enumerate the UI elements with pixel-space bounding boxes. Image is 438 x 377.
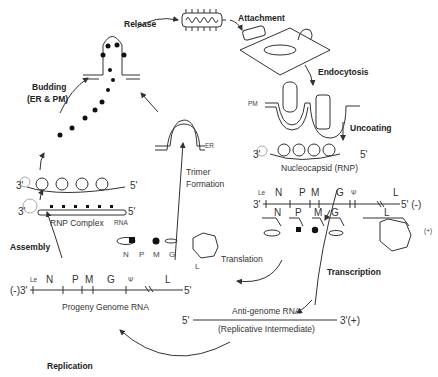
progeny-5-end: 5' <box>184 286 191 296</box>
antigenome-label: Anti-genome RNA <box>232 307 301 316</box>
replication-arrow <box>120 330 230 356</box>
gene-n: N <box>275 188 282 198</box>
protein-l: L <box>195 263 199 271</box>
replication-label: Replication <box>47 362 93 371</box>
trimer-sublabel: Formation <box>186 180 224 189</box>
gene-p: P <box>299 188 306 198</box>
mrna-m: M <box>314 208 322 218</box>
rnp-complex-3-end: 3' <box>18 207 25 217</box>
transcription-label: Transcription <box>327 268 381 277</box>
uncoating-label: Uncoating <box>350 124 392 133</box>
l-protein-shape <box>380 219 411 251</box>
endocytosis-arrow <box>305 65 313 85</box>
progeny-gene-g: G <box>107 275 115 285</box>
budding-label: Budding <box>32 83 66 92</box>
antigenome-3-end: 3'(+) <box>340 316 360 326</box>
gene-psi: Ψ <box>351 190 356 197</box>
progeny-gene-n: N <box>46 275 53 285</box>
progeny-gene-m: M <box>85 275 93 285</box>
assembly-label: Assembly <box>10 243 50 252</box>
genome-5-end: 5' (-) <box>401 200 421 210</box>
mrna-l: L <box>384 208 390 218</box>
protein-p: P <box>139 251 144 259</box>
protein-g: G <box>169 251 175 259</box>
mrna-polarity: (+) <box>424 228 432 235</box>
er-label: ER <box>205 143 214 150</box>
nucleocapsid-label: Nucleocapsid (RNP) <box>281 164 358 173</box>
nucleocapsid-3-end: 3' <box>253 150 260 160</box>
mrna-p: P <box>295 208 302 218</box>
pm-label: PM <box>248 101 258 108</box>
rnp-coil-3-end: 3' <box>16 181 23 191</box>
progeny-3-end: (-)3' <box>10 286 27 296</box>
rnp-complex-label: RNP Complex <box>50 219 104 228</box>
genome-3-end: 3' <box>253 200 260 210</box>
progeny-genome-label: Progeny Genome RNA <box>62 303 149 312</box>
progeny-gene-l: L <box>165 275 171 285</box>
gene-l: L <box>393 188 399 198</box>
budding-sublabel: (ER & PM) <box>27 95 68 104</box>
mrna-n: N <box>274 208 281 218</box>
progeny-gene-le: Le <box>30 277 37 284</box>
translation-label: Translation <box>221 255 263 264</box>
protein-m: M <box>153 251 160 259</box>
rnp-complex-5-end: 5' <box>128 207 135 217</box>
progeny-gene-psi: Ψ <box>128 277 133 284</box>
trimer-label: Trimer <box>186 168 210 177</box>
host-cell <box>240 28 330 75</box>
replicative-intermediate-label: (Replicative Intermediate) <box>218 325 315 334</box>
attachment-label: Attachment <box>238 14 285 23</box>
gene-g: G <box>336 188 344 198</box>
progeny-gene-p: P <box>72 275 79 285</box>
gene-m: M <box>311 188 319 198</box>
rna-label: RNA <box>114 220 128 227</box>
rnp-coil-5-end: 5' <box>130 181 137 191</box>
release-label: Release <box>124 20 156 29</box>
mrna-g: G <box>331 208 339 218</box>
endocytosis-label: Endocytosis <box>318 68 369 77</box>
nucleocapsid-5-end: 5' <box>360 150 367 160</box>
antigenome-5-end: 5' <box>182 316 189 326</box>
gene-le: Le <box>258 190 265 197</box>
protein-n: N <box>123 251 129 259</box>
